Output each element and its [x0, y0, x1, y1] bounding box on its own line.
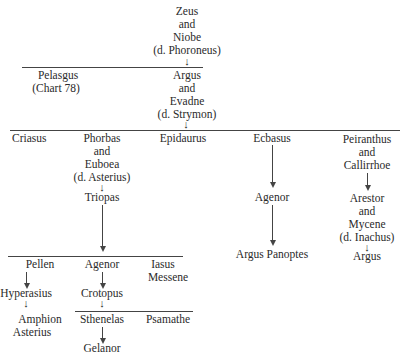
sthenelas-label: Sthenelas — [80, 313, 124, 326]
arrow-down-icon: ↓ — [184, 56, 190, 67]
triopas-label: Triopas — [85, 191, 120, 204]
connector-line — [272, 145, 273, 183]
asterius-label: Asterius — [13, 326, 51, 339]
arrow-head-icon — [365, 185, 371, 191]
iasus-label: Iasus — [151, 258, 175, 271]
sibling-line-gen2 — [10, 130, 400, 131]
zeus-label: Zeus — [176, 5, 198, 18]
arestor-label: Arestor — [350, 192, 385, 205]
sibling-line-gen1 — [22, 67, 203, 68]
agenor-ecbasus-son-label: Agenor — [255, 191, 290, 204]
pellen-label: Pellen — [26, 258, 55, 271]
argus-son-of-arestor-label: Argus — [353, 250, 381, 263]
sibling-line-gen3 — [8, 256, 183, 257]
connector-line — [102, 205, 103, 247]
gelanor-label: Gelanor — [83, 342, 120, 355]
and-label: and — [359, 205, 376, 218]
amphion-label: Amphion — [18, 313, 61, 326]
ecbasus-label: Ecbasus — [253, 132, 291, 145]
psamathe-label: Psamathe — [146, 313, 190, 326]
arrow-head-icon — [270, 240, 276, 246]
and-label: and — [179, 18, 196, 31]
pelasgus-label: Pelasgus — [38, 69, 78, 82]
euboea-label: Euboea — [85, 158, 119, 171]
peiranthus-label: Peiranthus — [343, 133, 392, 146]
argus-panoptes-label: Argus Panoptes — [236, 248, 308, 261]
chart-ref-note: (Chart 78) — [32, 82, 80, 95]
niobe-label: Niobe — [173, 31, 201, 44]
agenor-label: Agenor — [85, 258, 120, 271]
evadne-label: Evadne — [170, 95, 204, 108]
epidaurus-label: Epidaurus — [160, 132, 207, 145]
messene-label: Messene — [148, 271, 188, 284]
criasus-label: Criasus — [12, 132, 47, 145]
mycene-label: Mycene — [348, 218, 385, 231]
and-label: and — [179, 82, 196, 95]
arrow-down-icon: ↓ — [23, 298, 29, 309]
connector-line — [272, 205, 273, 241]
argus-label: Argus — [173, 69, 201, 82]
and-label: and — [94, 145, 111, 158]
and-label: and — [359, 146, 376, 159]
arrow-head-icon — [100, 246, 106, 252]
callirrhoe-label: Callirrhoe — [344, 159, 391, 172]
sibling-line-gen4 — [75, 311, 193, 312]
arrow-down-icon: ↓ — [183, 119, 189, 130]
arrow-down-icon: ↓ — [99, 298, 105, 309]
arrow-head-icon — [270, 182, 276, 188]
phorbas-label: Phorbas — [83, 132, 120, 145]
